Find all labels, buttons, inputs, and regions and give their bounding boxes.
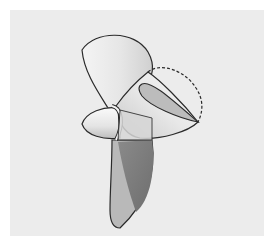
propeller-illustration: [0, 0, 274, 245]
hub-spinner: [82, 108, 120, 139]
